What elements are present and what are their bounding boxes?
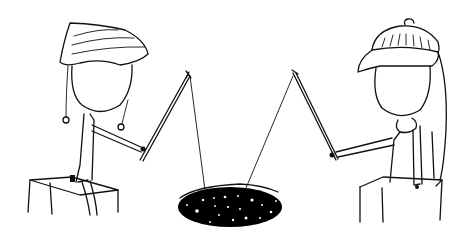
right-face [375, 66, 430, 116]
left-box [28, 177, 118, 214]
drawing-canvas [0, 0, 473, 245]
nightcap-hat [60, 23, 148, 130]
right-fishing-line [246, 76, 293, 188]
beanie-hat [372, 19, 439, 52]
left-fishing-rod [140, 71, 205, 190]
illustration [0, 0, 473, 245]
left-face [72, 65, 132, 112]
right-fishing-rod [246, 70, 338, 188]
starry-hole [178, 184, 282, 227]
left-fishing-line [190, 76, 205, 190]
left-body [70, 114, 143, 215]
left-figure [28, 23, 205, 215]
right-box [360, 177, 442, 222]
